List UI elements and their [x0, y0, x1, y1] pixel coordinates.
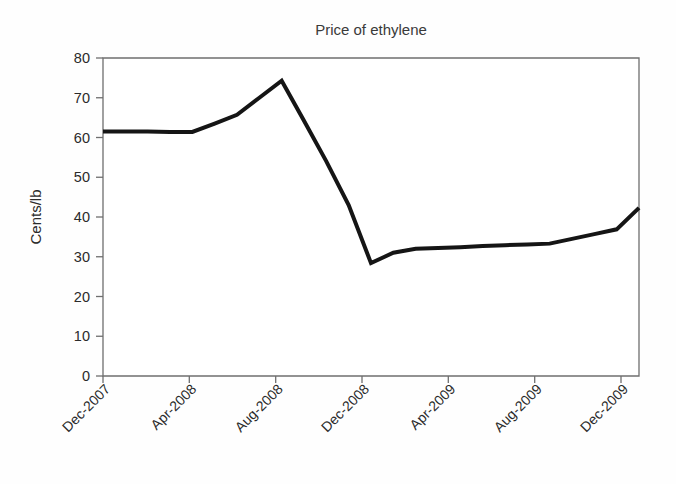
y-tick-label-0: 0: [82, 368, 90, 384]
chart-title: Price of ethylene: [315, 21, 427, 38]
y-tick-label-60: 60: [74, 130, 90, 146]
x-tick-label-aug-2008: Aug-2008: [232, 381, 286, 435]
x-tick-label-apr-2008: Apr-2008: [147, 381, 199, 433]
y-axis-ticks: [96, 58, 103, 376]
y-axis-tick-labels: 0 10 20 30 40 50 60 70 80: [74, 50, 90, 384]
x-axis-tick-labels: Dec-2007 Apr-2008 Aug-2008 Dec-2008 Apr-…: [59, 381, 631, 435]
x-tick-label-apr-2009: Apr-2009: [406, 381, 458, 433]
y-tick-label-80: 80: [74, 50, 90, 66]
y-tick-label-40: 40: [74, 209, 90, 225]
x-tick-label-dec-2009: Dec-2009: [577, 381, 631, 435]
y-axis-title: Cents/lb: [27, 189, 44, 244]
x-tick-label-dec-2007: Dec-2007: [59, 381, 113, 435]
y-tick-label-30: 30: [74, 249, 90, 265]
y-tick-label-10: 10: [74, 328, 90, 344]
x-axis-ticks: [103, 376, 621, 383]
y-tick-label-20: 20: [74, 289, 90, 305]
y-tick-label-50: 50: [74, 169, 90, 185]
y-tick-label-70: 70: [74, 90, 90, 106]
chart-figure: Price of ethylene 0 10 20 30 40 50 60 70…: [0, 0, 676, 484]
plot-area-background: [103, 58, 639, 376]
x-tick-label-dec-2008: Dec-2008: [318, 381, 372, 435]
price-of-ethylene-line-chart: Price of ethylene 0 10 20 30 40 50 60 70…: [0, 0, 676, 484]
x-tick-label-aug-2009: Aug-2009: [491, 381, 545, 435]
